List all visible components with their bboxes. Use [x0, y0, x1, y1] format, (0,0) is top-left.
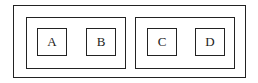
box-d: D: [195, 28, 225, 56]
box-a-label: A: [47, 34, 56, 50]
box-c: C: [147, 28, 177, 56]
box-b: B: [86, 28, 116, 56]
box-a: A: [37, 28, 67, 56]
box-b-label: B: [97, 34, 106, 50]
box-d-label: D: [205, 34, 214, 50]
box-c-label: C: [158, 34, 167, 50]
